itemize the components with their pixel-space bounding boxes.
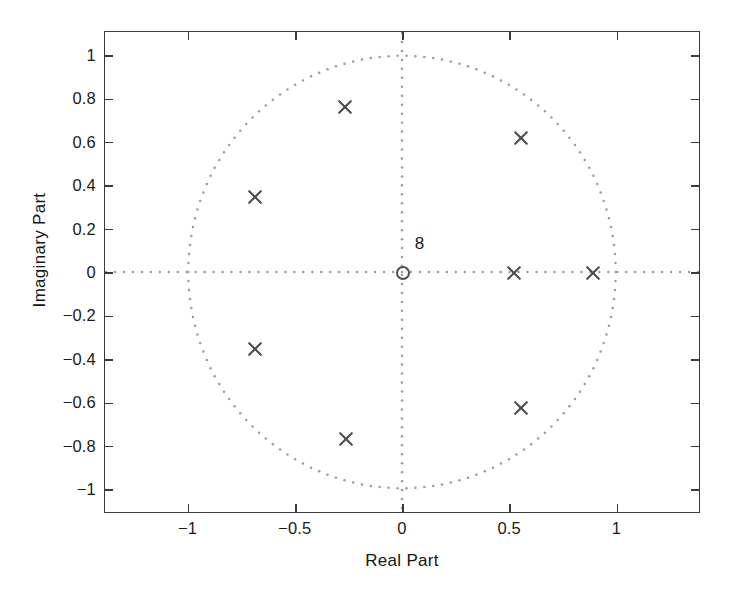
pole-marker-x[interactable] [512,129,530,147]
y-tick-9 [105,446,113,448]
pole-marker-x[interactable] [337,430,355,448]
zero-multiplicity-label: 8 [415,234,424,254]
pole-marker-x[interactable] [512,399,530,417]
zero-marker-circle[interactable] [394,264,412,282]
y-tick-5 [105,272,113,274]
y-tick-7 [105,359,113,361]
x-tick-1-top [295,32,297,40]
y-tick-label-5: 0 [87,263,96,282]
y-tick-6 [105,316,113,318]
plot-axes-frame: 8 [104,31,700,513]
x-tick-label-4: 1 [612,519,621,538]
pole-marker-x[interactable] [246,340,264,358]
x-tick-4-top [617,32,619,40]
y-tick-3 [105,185,113,187]
y-tick-4 [105,229,113,231]
pole-marker-x[interactable] [336,98,354,116]
x-tick-label-0: −1 [178,519,197,538]
y-tick-1-right [691,99,699,101]
x-tick-1 [295,504,297,512]
y-tick-9-right [691,446,699,448]
y-tick-5-right [691,272,699,274]
pole-marker-x[interactable] [246,188,264,206]
x-tick-0-top [188,32,190,40]
x-tick-4 [617,504,619,512]
y-tick-1 [105,99,113,101]
y-tick-label-1: 0.8 [72,89,96,108]
pole-zero-figure: 8 −1−0.500.51 10.80.60.40.20−0.2−0.4−0.6… [0,0,739,591]
pole-marker-x[interactable] [584,264,602,282]
x-tick-3 [509,504,511,512]
y-tick-4-right [691,229,699,231]
y-tick-8 [105,403,113,405]
x-tick-label-3: 0.5 [497,519,521,538]
pole-marker-x[interactable] [505,264,523,282]
y-tick-label-3: 0.4 [72,176,96,195]
y-tick-label-0: 1 [87,45,96,64]
y-tick-8-right [691,403,699,405]
y-tick-label-4: 0.2 [72,219,96,238]
y-axis-title: Imaginary Part [30,150,50,350]
y-tick-label-7: −0.4 [63,349,96,368]
x-tick-label-2: 0 [397,519,406,538]
x-axis-title: Real Part [104,551,700,571]
y-tick-10 [105,489,113,491]
x-tick-0 [188,504,190,512]
y-tick-6-right [691,316,699,318]
y-tick-2-right [691,142,699,144]
y-tick-label-2: 0.6 [72,132,96,151]
y-tick-label-6: −0.2 [63,306,96,325]
y-tick-label-10: −1 [77,480,96,499]
x-tick-label-1: −0.5 [278,519,311,538]
x-tick-2-top [402,32,404,40]
y-tick-7-right [691,359,699,361]
y-tick-0-right [691,55,699,57]
y-tick-0 [105,55,113,57]
y-tick-10-right [691,489,699,491]
x-tick-2 [402,504,404,512]
y-tick-3-right [691,185,699,187]
x-tick-3-top [509,32,511,40]
y-tick-label-8: −0.6 [63,393,96,412]
y-tick-label-9: −0.8 [63,436,96,455]
y-tick-2 [105,142,113,144]
